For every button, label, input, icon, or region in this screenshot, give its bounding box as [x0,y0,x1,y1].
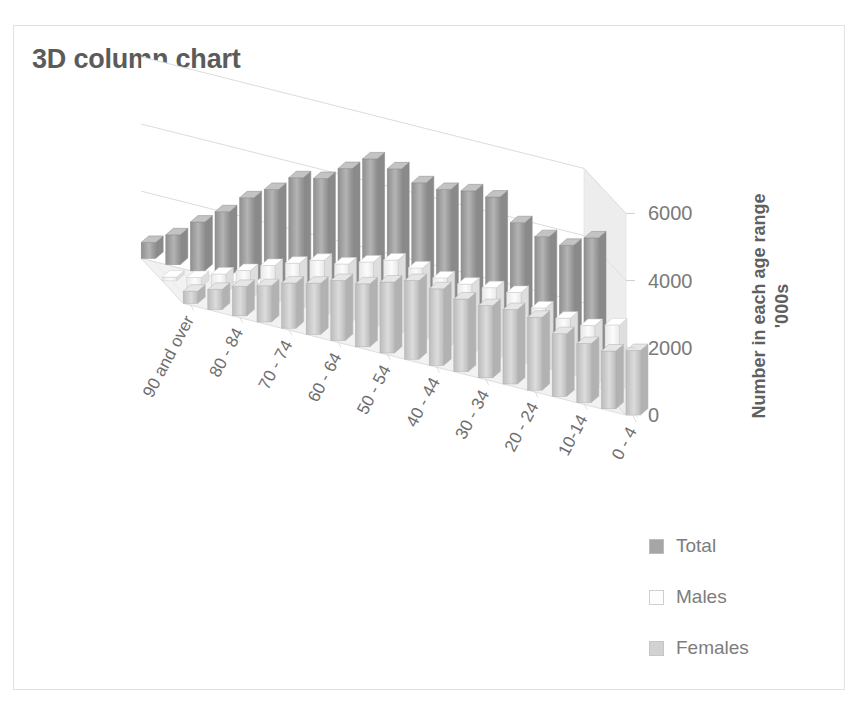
legend-item-total[interactable]: Total [649,536,829,556]
x-category-label-0: 90 and over [139,312,198,400]
legend-swatch-total-icon [649,539,664,554]
x-category-label-12: 30 - 34 [452,387,494,443]
bar-females-6[interactable] [331,274,353,341]
bar-females-14[interactable] [528,311,550,390]
x-category-label-8: 50 - 54 [353,362,395,418]
bar-total-0[interactable] [141,236,163,258]
chart-legend: Total Males Females [649,536,829,689]
legend-swatch-males-icon [649,590,664,605]
y-axis-title-line1: Number in each age range [749,193,769,418]
bar-females-7[interactable] [355,277,377,347]
bar-females-1[interactable] [208,283,230,310]
bar-females-13[interactable] [503,303,525,384]
bar-females-16[interactable] [577,337,599,403]
bar-females-15[interactable] [552,327,574,396]
bar-females-17[interactable] [601,345,623,409]
bar-females-10[interactable] [429,282,451,365]
y-tick-label-2000: 2000 [648,337,693,359]
y-axis-title-line2: '000s [771,284,791,328]
bar-females-8[interactable] [380,276,402,353]
legend-item-females[interactable]: Females [649,638,829,658]
bar-females-4[interactable] [282,277,304,329]
x-category-label-10: 40 - 44 [402,374,444,430]
x-category-label-16: 10-14 [554,412,591,459]
x-category-label-14: 20 - 24 [501,399,543,455]
legend-item-males[interactable]: Males [649,587,829,607]
x-category-label-18: 0 - 4 [608,424,641,463]
x-category-label-6: 60 - 64 [304,350,346,406]
y-tick-label-6000: 6000 [648,202,693,224]
bar-females-2[interactable] [232,280,254,316]
bar-females-18[interactable] [626,344,648,415]
y-tick-label-0: 0 [648,404,659,426]
y-tick-label-4000: 4000 [648,270,693,292]
x-category-label-4: 70 - 74 [255,337,297,393]
bar-females-12[interactable] [478,299,500,378]
bar-females-11[interactable] [454,292,476,371]
bar-females-3[interactable] [257,279,279,322]
bar-total-2[interactable] [190,216,212,271]
bar-total-1[interactable] [166,228,188,264]
chart-container: 3D column chart 020004000600090 and over… [13,25,845,690]
legend-label-males: Males [676,586,727,608]
legend-label-total: Total [676,535,716,557]
bar-females-9[interactable] [405,274,427,359]
bar-females-5[interactable] [306,277,328,335]
bar-total-3[interactable] [215,205,237,277]
x-category-label-2: 80 - 84 [206,325,248,381]
legend-label-females: Females [676,637,749,659]
y-axis-title: Number in each age range '000s [750,146,790,466]
legend-swatch-females-icon [649,641,664,656]
